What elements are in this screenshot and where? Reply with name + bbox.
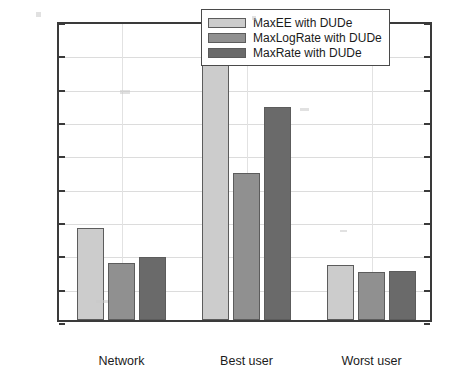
y-axis-tick <box>59 190 65 192</box>
y-axis-tick <box>424 323 430 325</box>
y-axis-tick <box>59 56 65 58</box>
scan-artifact <box>120 90 130 94</box>
bar <box>139 257 166 320</box>
bar <box>77 228 104 320</box>
y-axis-tick <box>424 156 430 158</box>
y-axis-tick <box>59 290 65 292</box>
legend-label-maxlograte: MaxLogRate with DUDe <box>253 31 382 45</box>
gridline <box>59 124 430 125</box>
legend-label-maxrate: MaxRate with DUDe <box>253 46 362 60</box>
scan-artifact <box>300 108 309 111</box>
gridline <box>59 157 430 158</box>
y-axis-tick <box>424 290 430 292</box>
y-axis-tick <box>424 23 430 25</box>
legend-swatch-maxrate <box>208 48 246 58</box>
legend-swatch-maxee <box>208 18 246 28</box>
plot-area: 0123456789NetworkBest userWorst user <box>57 22 432 322</box>
chart-legend: MaxEE with DUDe MaxLogRate with DUDe Max… <box>201 9 390 66</box>
x-axis-tick-label: Worst user <box>312 354 432 367</box>
y-axis-tick <box>59 123 65 125</box>
bar <box>389 271 416 320</box>
y-axis-tick <box>424 90 430 92</box>
bar <box>327 265 354 320</box>
legend-item: MaxEE with DUDe <box>208 15 382 30</box>
figure-canvas: Energy efficiency(Mbits/Hz/Joule) 012345… <box>0 0 458 367</box>
scan-artifact <box>252 16 256 20</box>
y-axis-tick <box>424 56 430 58</box>
scan-artifact <box>340 230 347 232</box>
y-axis-tick <box>59 23 65 25</box>
y-axis-tick <box>59 90 65 92</box>
y-axis-tick <box>59 256 65 258</box>
x-axis-tick-label: Best user <box>187 354 307 367</box>
scan-artifact <box>36 12 41 17</box>
y-axis-tick <box>424 190 430 192</box>
y-axis-tick <box>424 256 430 258</box>
bar <box>264 107 291 320</box>
legend-item: MaxRate with DUDe <box>208 45 382 60</box>
legend-item: MaxLogRate with DUDe <box>208 30 382 45</box>
y-axis-tick <box>59 156 65 158</box>
gridline <box>59 91 430 92</box>
legend-swatch-maxlograte <box>208 33 246 43</box>
y-axis-tick <box>424 123 430 125</box>
y-axis-tick <box>424 223 430 225</box>
x-axis-tick-label: Network <box>62 354 182 367</box>
legend-label-maxee: MaxEE with DUDe <box>253 16 352 30</box>
y-axis-tick <box>59 323 65 325</box>
bar <box>233 173 260 320</box>
scan-artifact <box>96 300 108 303</box>
bar <box>202 50 229 320</box>
bar <box>108 263 135 320</box>
bar <box>358 272 385 320</box>
y-axis-tick <box>59 223 65 225</box>
